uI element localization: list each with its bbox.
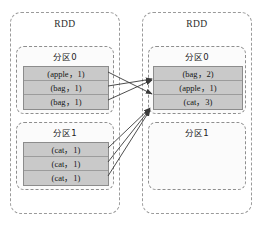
source-rdd-label: RDD: [11, 19, 119, 29]
source-partition-0-label: 分区0: [17, 50, 113, 62]
source-partition-1-records: (cat，1) (cat，1) (cat，1): [23, 142, 109, 186]
target-partition-1: 分区1: [148, 122, 246, 190]
list-item: (cat，1): [24, 157, 108, 171]
target-partition-0: 分区0 (bag，2) (apple，1) (cat，3): [148, 46, 246, 114]
list-item: (cat，1): [24, 171, 108, 185]
list-item: (apple，1): [154, 81, 242, 95]
list-item: (bag，2): [154, 67, 242, 81]
list-item: (cat，3): [154, 95, 242, 109]
list-item: (cat，1): [24, 143, 108, 157]
target-partition-0-records: (bag，2) (apple，1) (cat，3): [153, 66, 243, 110]
source-partition-0-records: (apple，1) (bag，1) (bag，1): [23, 66, 109, 110]
list-item: (apple，1): [24, 67, 108, 81]
source-partition-1-label: 分区1: [17, 126, 113, 138]
target-partition-0-label: 分区0: [149, 50, 245, 62]
list-item: (bag，1): [24, 81, 108, 95]
source-partition-1: 分区1 (cat，1) (cat，1) (cat，1): [16, 122, 114, 190]
list-item: (bag，1): [24, 95, 108, 109]
target-partition-1-label: 分区1: [149, 126, 245, 138]
source-partition-0: 分区0 (apple，1) (bag，1) (bag，1): [16, 46, 114, 114]
target-rdd-label: RDD: [143, 19, 251, 29]
rdd-shuffle-diagram: RDD 分区0 (apple，1) (bag，1) (bag，1) 分区1 (c…: [0, 0, 262, 226]
